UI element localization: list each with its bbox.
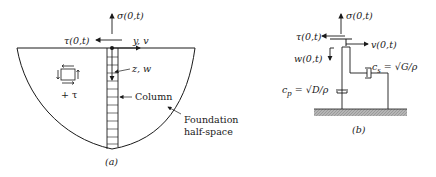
column-label: Column — [135, 92, 172, 102]
caption-a: (a) — [105, 157, 118, 167]
ground-hatch — [314, 109, 407, 116]
cp-label: cp = √D/ρ — [282, 85, 328, 98]
v-label: v(0,t) — [371, 40, 397, 50]
column — [107, 48, 118, 149]
sigma-label-a: σ(0,t) — [117, 11, 144, 21]
shear-link — [342, 47, 367, 73]
caption-b: (b) — [352, 125, 366, 135]
zw-label: z, w — [132, 64, 151, 74]
cs-label: cs = √G/ρ — [372, 62, 417, 75]
panel-a — [17, 14, 195, 149]
foundation-leader — [168, 107, 181, 114]
w-label: w(0,t) — [294, 54, 322, 64]
yv-label: y, v — [133, 36, 149, 46]
tau-label-a: τ(0,t) — [64, 36, 90, 46]
foundation-label-line2: half-space — [184, 127, 233, 137]
sigma-label-b: σ(0,t) — [346, 11, 373, 21]
foundation-label-line1: Foundation — [184, 115, 238, 125]
w-arrow — [330, 48, 334, 60]
plus-tau-label: + τ — [61, 90, 77, 100]
zw-leader — [115, 69, 130, 72]
shear-element-icon — [57, 65, 80, 85]
tau-label-b: τ(0,t) — [296, 32, 322, 42]
